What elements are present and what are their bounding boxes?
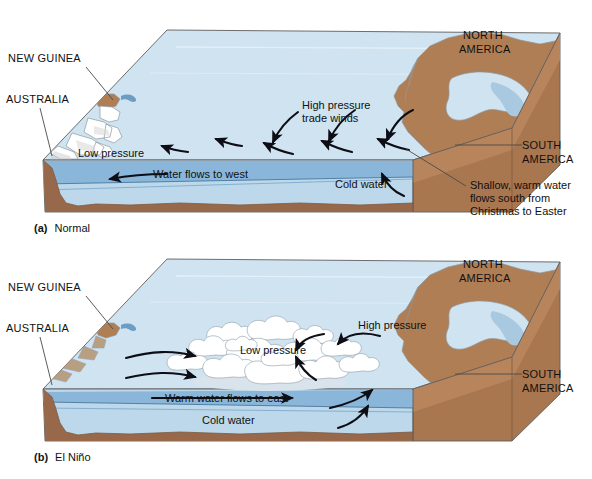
panel-b-low-pressure-label: Low pressure <box>240 344 306 356</box>
panel-a-water-flow-label: Water flows to west <box>153 168 248 180</box>
panel-b-water-flow-label: Warm water flows to east <box>165 392 288 404</box>
panel-b-caption-text: El Niño <box>55 451 90 463</box>
panel-a-callout-line2: flows south from <box>470 192 550 204</box>
panel-a-callout-line1: Shallow, warm water <box>470 179 571 191</box>
svg-text:(a) Normal: (a) Normal <box>34 222 90 234</box>
panel-a-low-pressure-label: Low pressure <box>78 147 144 159</box>
panel-a-new-guinea-label: NEW GUINEA <box>8 52 81 64</box>
panel-a-south-america-line2: AMERICA <box>522 153 574 165</box>
panel-b-cold-water-label: Cold water <box>202 414 255 426</box>
panel-a-callout-line3: Christmas to Easter <box>470 205 567 217</box>
panel-a-high-pressure-line1: High pressure <box>302 99 370 111</box>
panel-a-australia-leader <box>40 108 52 156</box>
panel-b-caption: (b) El Niño <box>34 451 91 463</box>
panel-a-south-america-line1: SOUTH <box>522 139 562 151</box>
panel-b-south-america-line1: SOUTH <box>522 368 562 380</box>
panel-a-australia-label: AUSTRALIA <box>6 93 69 105</box>
panel-b-north-america-line1: NORTH <box>463 258 503 270</box>
panel-a-high-pressure-line2: trade winds <box>302 112 359 124</box>
panel-b-australia-leader <box>40 337 52 385</box>
panel-b-south-america-line2: AMERICA <box>522 382 574 394</box>
svg-text:(b) El Niño: (b) El Niño <box>34 451 91 463</box>
figure-canvas: Low pressure High pressure trade winds W… <box>0 0 592 479</box>
panel-a-north-america-line1: NORTH <box>463 29 503 41</box>
el-nino-diagram: Low pressure High pressure trade winds W… <box>0 0 592 479</box>
panel-b-australia-label: AUSTRALIA <box>6 322 69 334</box>
panel-a-new-guinea-leader <box>86 67 113 100</box>
panel-a-cold-water-label: Cold water <box>335 178 388 190</box>
panel-b-new-guinea-label: NEW GUINEA <box>8 281 81 293</box>
panel-b-block: Low pressure High pressure Warm water fl… <box>6 258 574 441</box>
panel-a-block: Low pressure High pressure trade winds W… <box>6 29 574 217</box>
panel-a-caption: (a) Normal <box>34 222 90 234</box>
panel-a-caption-prefix: (a) <box>34 222 48 234</box>
panel-b-north-america-line2: AMERICA <box>459 272 511 284</box>
panel-a-north-america-line2: AMERICA <box>459 43 511 55</box>
panel-b-caption-prefix: (b) <box>34 451 48 463</box>
panel-b-new-guinea-leader <box>86 296 113 329</box>
panel-a-caption-text: Normal <box>55 222 90 234</box>
panel-b-high-pressure-label: High pressure <box>358 319 426 331</box>
